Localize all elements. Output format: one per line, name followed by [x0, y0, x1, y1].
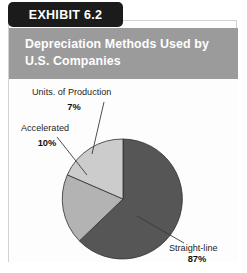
exhibit-number-tab: EXHIBIT 6.2	[8, 2, 123, 27]
pie-chart: Units. of Production 7% Accelerated 10% …	[9, 79, 238, 262]
exhibit-panel: Depreciation Methods Used by U.S. Compan…	[8, 20, 237, 262]
exhibit-number-label: EXHIBIT 6.2	[29, 8, 102, 22]
pie-chart-area: Units. of Production 7% Accelerated 10% …	[9, 79, 238, 262]
exhibit-title-line-2: U.S. Companies	[25, 54, 121, 68]
exhibit-figure: EXHIBIT 6.2 Depreciation Methods Used by…	[0, 0, 247, 273]
exhibit-title: Depreciation Methods Used by U.S. Compan…	[25, 36, 228, 70]
pie-label-straight-line: Straight-line	[169, 243, 218, 253]
exhibit-title-band: Depreciation Methods Used by U.S. Compan…	[9, 28, 238, 79]
pie-value-straight-line: 87%	[188, 254, 207, 262]
pie-value-accelerated: 10%	[38, 138, 57, 148]
pie-value-units-of-production: 7%	[67, 102, 81, 112]
pie-label-units-of-production: Units. of Production	[32, 87, 111, 97]
exhibit-title-line-1: Depreciation Methods Used by	[25, 37, 209, 51]
pie-label-accelerated: Accelerated	[21, 123, 69, 133]
